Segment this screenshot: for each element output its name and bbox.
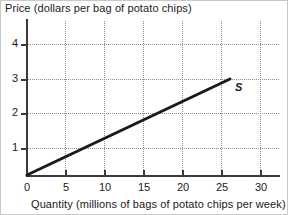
plot-area: 4 3 2 1 0 5 10 15 20 25 30 S <box>1 1 288 215</box>
x-axis-title: Quantity (millions of bags of potato chi… <box>31 198 286 210</box>
supply-curve-line <box>1 1 288 215</box>
curve-label-s: S <box>235 81 242 93</box>
supply-curve-chart: Price (dollars per bag of potato chips) … <box>0 0 288 215</box>
